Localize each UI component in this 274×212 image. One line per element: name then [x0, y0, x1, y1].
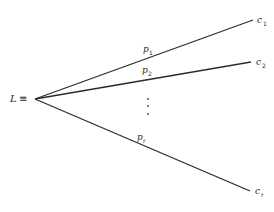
branch-edge-1 [35, 20, 253, 99]
outcome-subscript: 1 [263, 20, 267, 27]
branch-edge-r [35, 99, 250, 191]
probability-label-2: p 2 [142, 65, 152, 77]
outcome-label-r: c r [255, 186, 264, 198]
root-symbol: L [9, 93, 17, 104]
ellipsis-dot [147, 105, 149, 107]
ellipsis-dot [147, 113, 149, 115]
outcome-subscript: r [261, 191, 264, 198]
vertical-ellipsis [147, 98, 149, 115]
outcome-base: c [257, 15, 262, 25]
root-equiv-sign: ≡ [19, 93, 27, 104]
outcome-base: c [255, 186, 260, 196]
outcome-label-1: c 1 [257, 15, 267, 27]
probability-subscript: 1 [149, 49, 153, 56]
lottery-tree-diagram: L ≡ p 1 p 2 p r c 1 c 2 c r [0, 0, 274, 212]
outcome-label-2: c 2 [256, 57, 266, 69]
ellipsis-dot [147, 98, 149, 100]
probability-label-1: p 1 [143, 44, 153, 56]
root-label: L ≡ [9, 93, 27, 104]
probability-subscript: 2 [148, 70, 152, 77]
outcome-base: c [256, 57, 261, 67]
probability-subscript: r [143, 137, 146, 144]
outcome-subscript: 2 [262, 62, 266, 69]
probability-label-r: p r [137, 132, 146, 144]
